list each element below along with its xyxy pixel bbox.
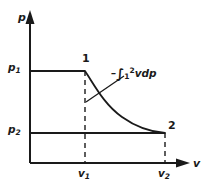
tick-label-p2-subscript: 2 bbox=[16, 128, 21, 137]
tick-label-v2-base: v bbox=[158, 167, 165, 179]
volume-axis-arrowhead bbox=[176, 159, 190, 168]
tick-label-p2: p2 bbox=[8, 124, 21, 135]
tick-label-v2: v2 bbox=[158, 168, 170, 179]
tick-label-p1-base: p bbox=[8, 61, 16, 73]
tick-label-p1-subscript: 1 bbox=[16, 66, 21, 75]
pressure-axis-label: p bbox=[18, 12, 26, 23]
volume-axis-label: v bbox=[193, 158, 200, 169]
tick-label-v2-subscript: 2 bbox=[165, 172, 170, 181]
tick-label-v1: v1 bbox=[78, 168, 90, 179]
pressure-axis-arrowhead bbox=[26, 10, 35, 24]
tick-label-p2-base: p bbox=[8, 123, 16, 135]
state-point-label-1: 1 bbox=[82, 53, 90, 64]
tick-label-p1: p1 bbox=[8, 62, 21, 73]
integral-integrand: vdp bbox=[135, 67, 157, 79]
work-integral-annotation: –∫12vdp bbox=[111, 66, 157, 79]
integral-symbol-icon: ∫ bbox=[116, 66, 124, 81]
integral-upper-limit: 2 bbox=[129, 66, 134, 75]
tick-label-v1-subscript: 1 bbox=[85, 172, 90, 181]
tick-label-v1-base: v bbox=[78, 167, 85, 179]
pv-diagram-figure: p v p1 p2 v1 v2 1 2 –∫12vdp bbox=[0, 0, 207, 187]
pv-diagram-canvas bbox=[0, 0, 207, 187]
state-point-label-2: 2 bbox=[168, 120, 176, 131]
